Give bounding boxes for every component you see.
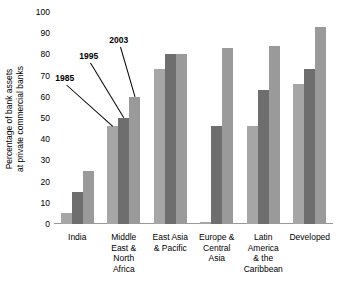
bar-1995 bbox=[304, 69, 315, 224]
bar-1995 bbox=[118, 118, 129, 224]
category-label-line: Caribbean bbox=[235, 264, 291, 275]
bar-group bbox=[154, 12, 187, 224]
bar-1985 bbox=[154, 69, 165, 224]
y-tick-label: 10 bbox=[24, 199, 50, 208]
bar-2003 bbox=[269, 46, 280, 224]
year-annotation-1985: 1985 bbox=[55, 74, 74, 83]
y-axis-tick-labels: 1009080706050403020100 bbox=[20, 0, 50, 238]
bar-1995 bbox=[211, 126, 222, 224]
bar-group bbox=[293, 12, 326, 224]
category-label-line: & the bbox=[235, 253, 291, 264]
y-axis-title-line-1: Percentage of bank assets bbox=[4, 69, 14, 170]
y-tick-label: 60 bbox=[24, 93, 50, 102]
plot-area: 198519952003 bbox=[54, 12, 333, 224]
y-tick-label: 50 bbox=[24, 114, 50, 123]
bar-1985 bbox=[200, 222, 211, 224]
y-tick-label: 30 bbox=[24, 156, 50, 165]
bar-1985 bbox=[247, 126, 258, 224]
year-annotation-2003: 2003 bbox=[109, 36, 128, 45]
bar-2003 bbox=[315, 27, 326, 224]
y-tick-label: 70 bbox=[24, 72, 50, 81]
bar-1995 bbox=[165, 54, 176, 224]
bar-group bbox=[200, 12, 233, 224]
y-tick-label: 100 bbox=[24, 8, 50, 17]
year-annotation-1995: 1995 bbox=[79, 52, 98, 61]
bar-group bbox=[247, 12, 280, 224]
y-tick-label: 20 bbox=[24, 178, 50, 187]
x-axis-category-labels: IndiaMiddleEast &NorthAfricaEast Asia& P… bbox=[54, 232, 333, 290]
bar-1985 bbox=[61, 213, 72, 224]
bar-1985 bbox=[107, 126, 118, 224]
category-label-line: North bbox=[96, 253, 152, 264]
y-tick-label: 40 bbox=[24, 135, 50, 144]
y-tick-label: 80 bbox=[24, 50, 50, 59]
bar-1985 bbox=[293, 84, 304, 224]
y-tick-label: 0 bbox=[24, 220, 50, 229]
bar-1995 bbox=[258, 90, 269, 224]
chart-container: Percentage of bank assets at private com… bbox=[0, 0, 339, 290]
x-axis-line bbox=[54, 223, 333, 224]
category-label-line: Africa bbox=[96, 264, 152, 275]
category-label-line: America bbox=[235, 243, 291, 254]
bar-2003 bbox=[176, 54, 187, 224]
bar-1995 bbox=[72, 192, 83, 224]
category-label-line: Developed bbox=[282, 232, 338, 243]
bar-2003 bbox=[129, 97, 140, 224]
bar-group bbox=[61, 12, 94, 224]
bar-2003 bbox=[222, 48, 233, 224]
category-label: Developed bbox=[282, 232, 338, 243]
y-tick-label: 90 bbox=[24, 29, 50, 38]
bar-2003 bbox=[83, 171, 94, 224]
